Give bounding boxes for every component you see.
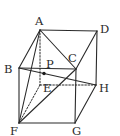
edge-CG [75,69,76,123]
point-P [42,72,45,75]
edge-GH [75,85,96,123]
label-E: E [43,81,51,95]
edge-FC [19,69,76,123]
points-group [42,72,45,75]
edge-DH [96,31,97,85]
edge-CD [76,31,97,69]
edge-AF [19,30,40,123]
edge-AD [40,30,97,31]
label-B: B [4,62,12,76]
edge-EF-hidden [19,85,40,123]
label-P: P [46,57,54,71]
label-D: D [100,22,109,36]
label-A: A [34,14,44,28]
label-C: C [68,51,77,65]
edge-AB [19,30,40,68]
label-G: G [72,124,81,136]
cube-diagram: A D B C P E H F G [0,0,120,136]
edge-BH [19,68,96,85]
label-H: H [99,81,109,95]
edges-group [19,30,97,123]
label-F: F [10,124,18,136]
